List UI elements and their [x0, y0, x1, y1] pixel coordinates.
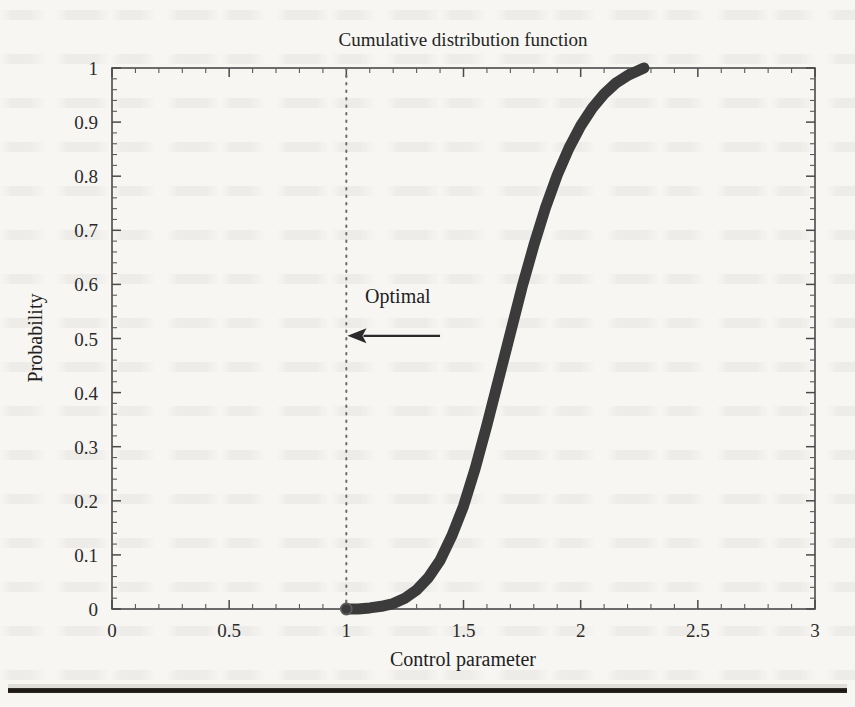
y-tick-label: 0.9: [74, 112, 98, 133]
y-tick-label: 0.2: [74, 491, 98, 512]
x-axis-tick-labels: 00.511.522.53: [107, 620, 820, 641]
x-tick-label: 1: [342, 620, 352, 641]
x-axis-ticks: [112, 68, 815, 609]
cdf-chart-figure: Cumulative distribution function 00.511.…: [0, 0, 855, 707]
scanned-page: Cumulative distribution function 00.511.…: [0, 0, 855, 707]
y-tick-label: 0.3: [74, 437, 98, 458]
chart-title: Cumulative distribution function: [338, 29, 588, 50]
optimal-annotation-label: Optimal: [365, 285, 431, 308]
x-tick-label: 1.5: [452, 620, 476, 641]
y-tick-label: 1: [89, 58, 99, 79]
y-tick-label: 0.1: [74, 545, 98, 566]
x-tick-label: 2.5: [686, 620, 710, 641]
y-tick-label: 0.6: [74, 274, 98, 295]
plot-frame: [112, 68, 815, 609]
y-tick-label: 0: [89, 599, 99, 620]
y-tick-label: 0.4: [74, 383, 98, 404]
x-axis-title: Control parameter: [390, 648, 536, 671]
y-axis-ticks: [112, 68, 815, 609]
optimal-arrow-icon: [348, 328, 441, 343]
cdf-curve: [346, 68, 644, 609]
page-bottom-rule: [8, 688, 847, 693]
y-axis-title: Probability: [24, 294, 47, 383]
x-tick-label: 2: [576, 620, 586, 641]
y-tick-label: 0.7: [74, 220, 98, 241]
x-tick-label: 3: [810, 620, 820, 641]
x-tick-label: 0: [107, 620, 117, 641]
x-tick-label: 0.5: [217, 620, 241, 641]
y-tick-label: 0.8: [74, 166, 98, 187]
y-axis-tick-labels: 00.10.20.30.40.50.60.70.80.91: [74, 58, 98, 620]
y-tick-label: 0.5: [74, 329, 98, 350]
